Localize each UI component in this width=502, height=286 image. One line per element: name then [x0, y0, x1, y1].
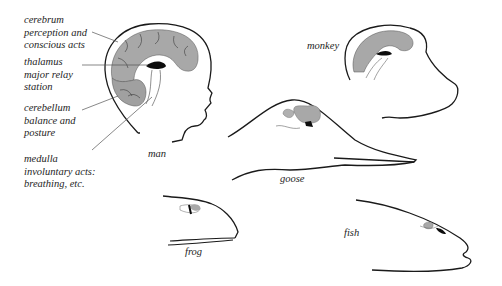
- species-label-goose: goose: [280, 173, 305, 184]
- man-brain: [111, 30, 198, 106]
- goose-head: [228, 100, 416, 180]
- species-label-fish: fish: [344, 227, 359, 238]
- monkey-brain: [353, 31, 413, 80]
- frog-brain: [180, 204, 200, 214]
- species-label-monkey: monkey: [307, 40, 339, 51]
- frog-head: [163, 196, 238, 245]
- label-cerebrum: cerebrum perception and conscious acts: [24, 14, 87, 52]
- species-label-man: man: [148, 148, 166, 159]
- species-label-frog: frog: [185, 246, 202, 257]
- label-thalamus: thalamus major relay station: [24, 56, 73, 94]
- fish-head: [356, 200, 471, 271]
- label-cerebellum: cerebellum balance and posture: [24, 102, 76, 140]
- goose-brain: [276, 106, 321, 129]
- label-medulla: medulla involuntary acts: breathing, etc…: [24, 153, 95, 191]
